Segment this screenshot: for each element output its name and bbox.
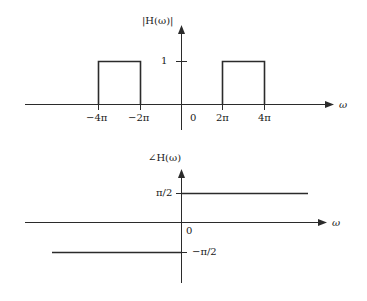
magnitude-omega-label: ω	[339, 100, 347, 110]
magnitude-tick-label-minus-4pi: −4π	[86, 113, 107, 123]
phase-origin-label: 0	[186, 226, 192, 236]
magnitude-tick-label-zero: 0	[190, 113, 196, 123]
phase-omega-label: ω	[332, 218, 340, 228]
phase-axis-title: ∠H(ω)	[148, 153, 181, 163]
magnitude-tick-label-minus-2pi: −2π	[128, 113, 149, 123]
magnitude-value-label-1: 1	[161, 56, 167, 66]
phase-plot-svg	[0, 150, 367, 301]
phase-axis-title-text: H(ω)	[156, 152, 181, 163]
phase-value-label-minus-pi-over-2: −π/2	[192, 247, 217, 257]
magnitude-response-plot: |H(ω)| ω 1 −4π −2π 0 2π 4π	[0, 0, 367, 150]
magnitude-axis-title: |H(ω)|	[142, 16, 173, 26]
magnitude-tick-label-4pi: 4π	[258, 113, 271, 123]
phase-x-axis	[25, 219, 327, 226]
phase-value-label-pi-over-2: π/2	[156, 188, 172, 198]
magnitude-tick-label-2pi: 2π	[216, 113, 229, 123]
magnitude-pulse-negative	[99, 62, 141, 105]
magnitude-x-axis	[25, 101, 334, 108]
figure-canvas: |H(ω)| ω 1 −4π −2π 0 2π 4π	[0, 0, 367, 301]
magnitude-y-axis	[178, 25, 185, 130]
phase-y-axis	[178, 169, 185, 283]
magnitude-plot-svg	[0, 0, 367, 150]
phase-response-plot: ∠H(ω) ω 0 π/2 −π/2	[0, 150, 367, 301]
magnitude-pulse-positive	[223, 62, 265, 105]
